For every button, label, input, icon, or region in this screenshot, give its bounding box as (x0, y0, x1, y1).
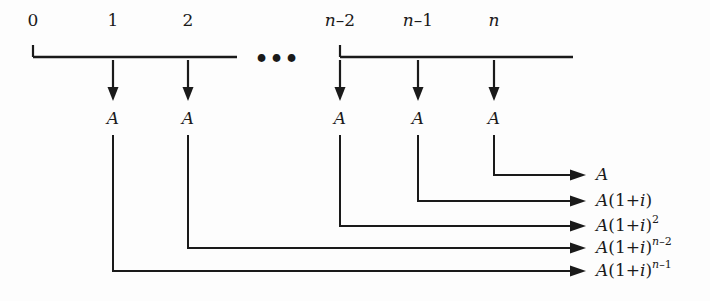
connector-future-value-n (494, 135, 586, 181)
timeline-diagram-canvas: 012n–2n–1n ••• AAAAA AA(1+i)A(1+i)2A(1+i… (0, 0, 710, 301)
arrow-head-down (489, 87, 500, 101)
ellipsis-icon: ••• (254, 45, 299, 71)
connector-path (113, 135, 571, 271)
payment-arrow-n (489, 60, 500, 101)
connector-future-value-2 (188, 135, 586, 254)
arrow-head-right (570, 170, 586, 181)
payment-labels-group: AAAAA (105, 108, 500, 128)
period-0: 0 (28, 10, 39, 30)
timeline-axis-group (33, 45, 573, 57)
arrow-head-right (570, 196, 586, 207)
label-future-value-1: A(1+i)n–1 (594, 258, 672, 280)
payment-arrow-2 (183, 60, 194, 101)
arrow-head-down (108, 87, 119, 101)
label-future-value-n: A (594, 164, 608, 184)
label-future-value-n-2: A(1+i)2 (594, 213, 659, 235)
payment-label-3: A (332, 108, 346, 128)
connector-future-value-n-2 (340, 135, 586, 232)
connector-path (340, 135, 571, 226)
arrow-head-down (413, 87, 424, 101)
future-value-labels-group: AA(1+i)A(1+i)2A(1+i)n–2A(1+i)n–1 (594, 164, 672, 280)
period-labels-group: 012n–2n–1n (28, 10, 500, 30)
period-1: 1 (108, 10, 119, 30)
payment-arrows-group (108, 60, 500, 101)
payment-label-2: A (180, 108, 194, 128)
payment-arrow-n-1 (413, 60, 424, 101)
connector-future-value-n-1 (418, 135, 586, 207)
accumulation-connectors-group (113, 135, 586, 277)
payment-arrow-n-2 (335, 60, 346, 101)
period-n-1: n–1 (403, 10, 433, 30)
payment-arrow-1 (108, 60, 119, 101)
annuity-timeline-figure: 012n–2n–1n ••• AAAAA AA(1+i)A(1+i)2A(1+i… (0, 0, 710, 301)
period-n-2: n–2 (325, 10, 355, 30)
arrow-head-right (570, 243, 586, 254)
payment-label-4: A (410, 108, 424, 128)
connector-future-value-1 (113, 135, 586, 277)
period-n: n (489, 10, 500, 30)
connector-path (188, 135, 571, 248)
label-future-value-2: A(1+i)n–2 (594, 235, 672, 257)
payment-label-1: A (105, 108, 119, 128)
period-2: 2 (183, 10, 194, 30)
arrow-head-right (570, 221, 586, 232)
label-future-value-n-1: A(1+i) (594, 190, 652, 210)
arrow-head-right (570, 266, 586, 277)
arrow-head-down (335, 87, 346, 101)
payment-label-5: A (486, 108, 500, 128)
arrow-head-down (183, 87, 194, 101)
connector-path (494, 135, 571, 175)
